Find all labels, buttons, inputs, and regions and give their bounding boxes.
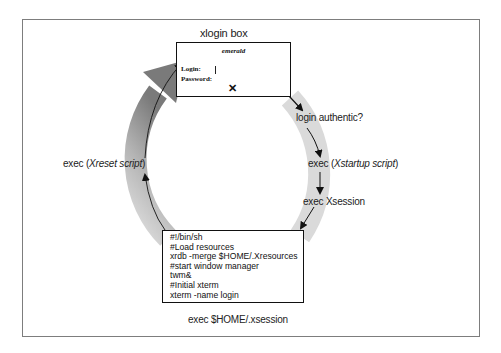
script-line: xterm -name login: [170, 291, 303, 301]
login-authentic-label: login authentic?: [296, 112, 363, 123]
xlogin-box-title: xlogin box: [200, 27, 248, 39]
text-cursor-icon: [215, 66, 216, 74]
login-label: Login:: [181, 65, 201, 73]
xreset-prefix: exec (: [63, 158, 89, 169]
exec-xsession-label: exec Xsession: [303, 196, 365, 207]
xlogin-box: emerald Login: Password: ✕: [176, 42, 291, 97]
xreset-label: exec (Xreset script): [63, 158, 145, 169]
xstartup-suffix: ): [395, 158, 398, 169]
x-cursor-icon: ✕: [228, 83, 237, 94]
xstartup-script-name: Xstartup script: [334, 158, 395, 169]
password-label: Password:: [181, 75, 212, 83]
hostname-label: emerald: [177, 47, 290, 55]
xsession-script-box: #!/bin/sh #Load resources xrdb -merge $H…: [162, 230, 304, 303]
xstartup-label: exec (Xstartup script): [308, 158, 398, 169]
xreset-script-name: Xreset script: [89, 158, 142, 169]
exec-home-xsession-label: exec $HOME/.xsession: [188, 314, 288, 325]
xstartup-prefix: exec (: [308, 158, 334, 169]
xreset-suffix: ): [142, 158, 145, 169]
